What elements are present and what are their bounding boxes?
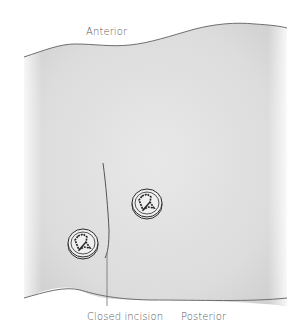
posterior-label: Posterior	[181, 311, 226, 322]
suture-button-upper-icon	[132, 189, 162, 219]
suture-button-lower-icon	[68, 229, 98, 259]
diagram-canvas	[0, 0, 301, 334]
suture-diagram: Anterior Closed incision Posterior	[0, 0, 301, 334]
anterior-label: Anterior	[86, 26, 127, 37]
closed-incision-label: Closed incision	[87, 311, 163, 322]
